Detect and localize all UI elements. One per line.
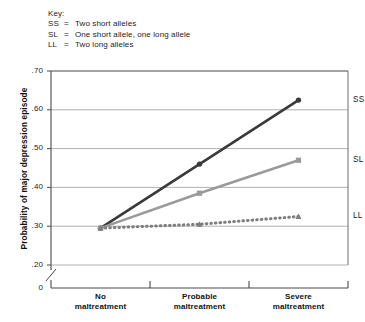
y-tick-label: .30	[17, 221, 43, 230]
x-category-label-1: Probablemaltreatment	[150, 292, 249, 312]
x-axis-ticks	[150, 281, 249, 288]
series-label-sl: SL	[353, 155, 364, 164]
data-series-layer	[98, 97, 302, 230]
y-origin-label: 0	[17, 283, 43, 292]
marker-ss-1	[197, 161, 202, 166]
x-category-label-0: Nomaltreatment	[51, 292, 150, 312]
plot-frame	[51, 71, 348, 288]
y-axis-ticks	[47, 71, 51, 265]
plot-area	[0, 0, 365, 322]
y-tick-label: .40	[17, 182, 43, 191]
y-tick-label: .70	[17, 66, 43, 75]
marker-ll-2	[296, 214, 302, 219]
y-tick-label: .20	[17, 260, 43, 269]
gridlines	[51, 71, 348, 265]
marker-sl-2	[296, 158, 301, 163]
y-tick-label: .50	[17, 143, 43, 152]
figure-container: Key: SS = Two short alleles SL = One sho…	[0, 0, 365, 322]
marker-ss-2	[296, 97, 301, 102]
marker-sl-1	[197, 191, 202, 196]
x-category-label-2: Severemaltreatment	[249, 292, 348, 312]
y-axis-break-icon	[46, 269, 56, 281]
series-label-ll: LL	[353, 211, 363, 220]
y-tick-label: .60	[17, 104, 43, 113]
series-label-ss: SS	[353, 95, 365, 104]
